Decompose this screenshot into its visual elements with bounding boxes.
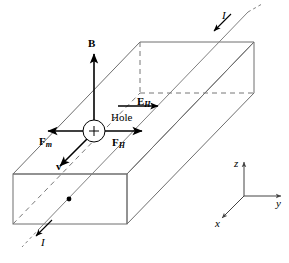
axis-label-x: x [215, 218, 220, 229]
current-label-bottom: I [41, 237, 45, 248]
velocity-label: v [56, 161, 62, 172]
current-arrow-bottom [36, 220, 52, 236]
current-label-top: I [222, 10, 226, 21]
front-face-center-dot [67, 197, 72, 202]
b-field-label: B [88, 38, 95, 49]
diagram-canvas [0, 0, 289, 263]
magnetic-force-label: Fm [39, 136, 52, 149]
axis-label-z: z [234, 158, 238, 169]
hall-effect-figure: B EH Hole Fm FH v I I z y x [0, 0, 289, 263]
slab-right-face [127, 42, 254, 224]
coordinate-axes [222, 162, 281, 218]
hall-force-label: FH [112, 137, 125, 150]
hole-label: Hole [111, 112, 132, 123]
hall-field-label: EH [137, 96, 151, 109]
axis-label-y: y [276, 198, 281, 209]
slab-hidden-edges [13, 42, 254, 224]
current-axis-line [22, 4, 262, 247]
slab-top-face [13, 42, 254, 174]
